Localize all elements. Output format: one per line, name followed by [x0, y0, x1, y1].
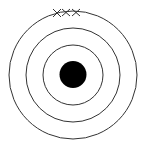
x-mark-icon: [72, 9, 80, 16]
x-mark-icon: [53, 9, 61, 17]
x-marks: [53, 9, 80, 17]
target-diagram: [0, 0, 144, 145]
x-mark-icon: [62, 9, 70, 16]
bullseye: [60, 61, 87, 88]
